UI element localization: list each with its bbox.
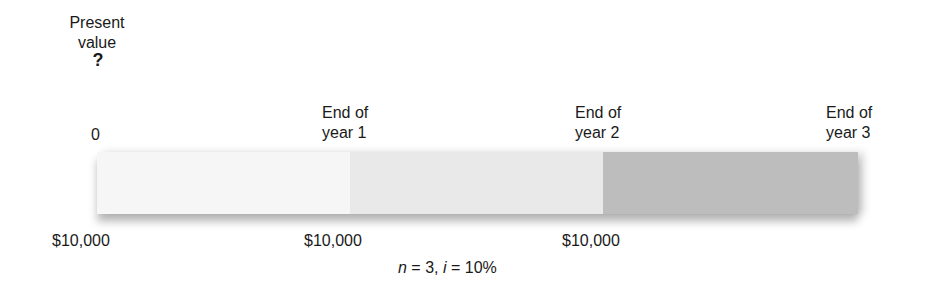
point-label-line2: year 1 <box>322 123 368 143</box>
point-label-line1: End of <box>575 103 621 123</box>
timeline-point-year-3: End of year 3 <box>826 103 872 143</box>
present-value-unknown: ? <box>88 50 108 70</box>
i-value: = 10% <box>447 259 497 276</box>
n-value: = 3, <box>407 259 443 276</box>
present-value-label: Present value <box>52 13 142 53</box>
point-label-line1: End of <box>322 103 368 123</box>
point-label-line2: year 3 <box>826 123 872 143</box>
present-value-line1: Present <box>52 13 142 33</box>
cash-flow-0: $10,000 <box>52 231 110 251</box>
cash-flow-2: $10,000 <box>562 231 620 251</box>
parameters-note: n = 3, i = 10% <box>398 258 497 278</box>
timeline-point-year-2: End of year 2 <box>575 103 621 143</box>
timeline-segment-year-3 <box>603 152 858 214</box>
timeline-segment-year-2 <box>350 152 603 214</box>
timeline-segment-year-1 <box>97 152 350 214</box>
point-label-line2: year 2 <box>575 123 621 143</box>
timeline-point-0: 0 <box>91 125 100 145</box>
n-symbol: n <box>398 259 407 276</box>
cash-flow-1: $10,000 <box>304 231 362 251</box>
timeline-bar <box>97 152 858 214</box>
timeline-point-year-1: End of year 1 <box>322 103 368 143</box>
point-label-line1: End of <box>826 103 872 123</box>
